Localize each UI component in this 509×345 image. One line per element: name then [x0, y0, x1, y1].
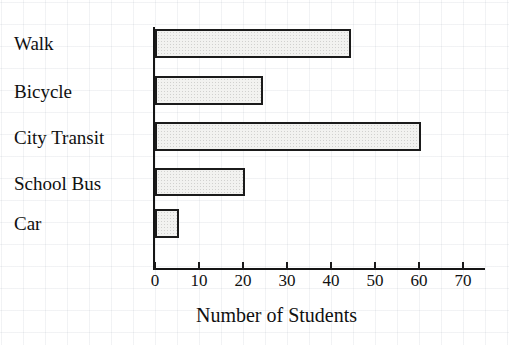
x-tick-30	[286, 262, 288, 270]
x-tick-60	[418, 262, 420, 270]
bar-school-bus	[155, 168, 245, 196]
bar-car	[155, 209, 179, 238]
x-tick-label-10: 10	[181, 270, 217, 292]
x-tick-label-40: 40	[313, 270, 349, 292]
x-tick-label-50: 50	[357, 270, 393, 292]
x-tick-label-20: 20	[225, 270, 261, 292]
bar-city-transit	[155, 122, 421, 151]
category-label-walk: Walk	[14, 34, 54, 53]
bar-chart: Walk Bicycle City Transit School Bus Car…	[0, 0, 509, 345]
x-tick-label-0: 0	[137, 270, 173, 292]
x-tick-10	[198, 262, 200, 270]
plot-area: Walk Bicycle City Transit School Bus Car…	[0, 0, 509, 345]
x-axis-title: Number of Students	[0, 304, 509, 327]
x-tick-40	[330, 262, 332, 270]
bar-walk	[155, 29, 351, 58]
x-tick-0	[154, 262, 156, 270]
x-tick-20	[242, 262, 244, 270]
category-label-city-transit: City Transit	[14, 128, 104, 147]
x-tick-50	[374, 262, 376, 270]
x-tick-label-70: 70	[445, 270, 481, 292]
x-tick-label-30: 30	[269, 270, 305, 292]
category-label-car: Car	[14, 214, 41, 233]
y-axis-line	[153, 27, 155, 270]
x-tick-label-60: 60	[401, 270, 437, 292]
x-tick-70	[462, 262, 464, 270]
category-label-school-bus: School Bus	[14, 174, 101, 193]
bar-bicycle	[155, 76, 263, 105]
category-label-bicycle: Bicycle	[14, 82, 72, 101]
